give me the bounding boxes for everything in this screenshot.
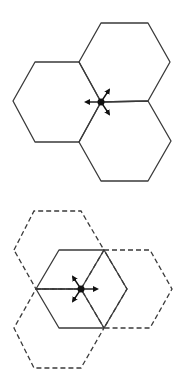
vertex-dot bbox=[98, 99, 105, 106]
vertex-dot bbox=[78, 286, 85, 293]
bottom-panel bbox=[14, 211, 172, 368]
hexagon-top-right bbox=[79, 23, 170, 102]
top-panel bbox=[13, 23, 171, 181]
inner-line-up bbox=[81, 250, 104, 289]
hexagon-bottom-right bbox=[79, 101, 171, 181]
dashed-hexagon-right bbox=[104, 250, 172, 328]
hexagon-diagram bbox=[0, 0, 181, 385]
inner-line-down bbox=[81, 289, 104, 328]
